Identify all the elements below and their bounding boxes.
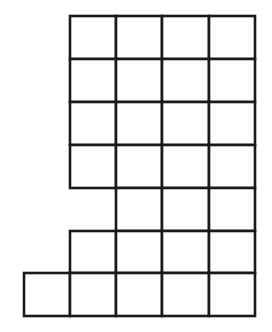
grid-cell: [162, 102, 209, 145]
grid-cell: [162, 231, 209, 273]
grid-cell: [70, 145, 116, 188]
grid-cell: [162, 145, 209, 188]
grid-figure: [0, 0, 272, 332]
grid-cell: [24, 273, 70, 316]
grid-cell: [70, 231, 116, 273]
grid-svg: [0, 0, 272, 332]
grid-cell: [209, 102, 255, 145]
grid-cell: [70, 59, 116, 102]
grid-cell: [162, 273, 209, 316]
grid-cell: [209, 16, 255, 59]
grid-cell: [70, 102, 116, 145]
grid-cell: [116, 16, 162, 59]
grid-cell: [162, 188, 209, 231]
grid-cell: [116, 102, 162, 145]
grid-cell: [209, 273, 255, 316]
grid-cell: [116, 273, 162, 316]
grid-cell: [116, 145, 162, 188]
grid-cell: [70, 273, 116, 316]
grid-cell: [116, 188, 162, 231]
grid-cells-layer: [24, 16, 255, 316]
grid-cell: [116, 231, 162, 273]
grid-cell: [116, 59, 162, 102]
grid-cell: [162, 59, 209, 102]
grid-cell: [209, 188, 255, 231]
grid-cell: [209, 145, 255, 188]
grid-cell: [162, 16, 209, 59]
grid-cell: [209, 231, 255, 273]
grid-cell: [70, 16, 116, 59]
grid-cell: [209, 59, 255, 102]
